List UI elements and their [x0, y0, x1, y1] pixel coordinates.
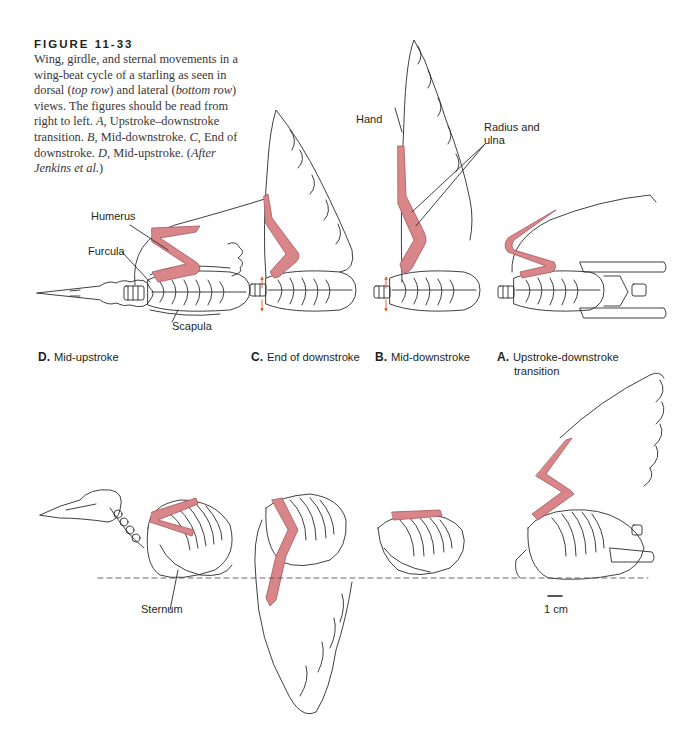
panel-letter: C.: [251, 350, 263, 364]
bone-highlight-d: [152, 226, 200, 282]
bone-highlight-c-lateral: [266, 498, 298, 606]
panel-letter: B.: [375, 350, 387, 364]
lateral-view-b: [378, 514, 464, 575]
panel-title: Upstroke-downstroke: [513, 351, 619, 363]
panel-letter: A.: [497, 350, 509, 364]
bone-highlight-a-lateral: [532, 438, 574, 520]
panel-label-d: D.Mid-upstroke: [38, 351, 119, 365]
bone-highlight-a: [505, 210, 556, 278]
label-scapula: Scapula: [172, 320, 212, 333]
leader-radius-1: [412, 144, 485, 212]
label-radius-ulna: Radius and ulna: [484, 121, 540, 147]
lateral-view-d: [40, 490, 232, 578]
label-sternum: Sternum: [141, 603, 183, 616]
label-radius-ulna-line1: Radius and: [484, 121, 540, 133]
bone-highlight-b: [398, 146, 426, 273]
bone-highlight-b-lateral: [392, 510, 442, 520]
panel-label-c: C.End of downstroke: [251, 351, 360, 365]
label-humerus: Humerus: [91, 210, 136, 223]
panel-subtitle: transition: [497, 365, 619, 379]
leader-hand: [395, 108, 402, 132]
label-scale-bar: 1 cm: [544, 603, 568, 616]
panel-label-b: B.Mid-downstroke: [375, 351, 470, 365]
panel-title: Mid-downstroke: [391, 351, 470, 363]
label-furcula: Furcula: [88, 245, 125, 258]
leader-radius-2: [416, 144, 485, 226]
panel-title: Mid-upstroke: [54, 351, 119, 363]
label-radius-ulna-line2: ulna: [484, 134, 505, 146]
panel-label-a: A.Upstroke-downstroke transition: [497, 351, 619, 378]
dorsal-view-b: [374, 40, 480, 311]
dorsal-view-d: [37, 198, 268, 315]
panel-letter: D.: [38, 350, 50, 364]
bone-highlight-c: [264, 194, 299, 278]
panel-title: End of downstroke: [267, 351, 360, 363]
label-hand: Hand: [356, 113, 382, 126]
leader-furcula: [122, 252, 150, 282]
